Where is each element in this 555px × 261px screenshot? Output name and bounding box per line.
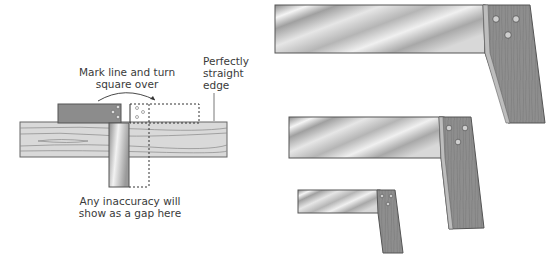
rivet-icon <box>116 115 120 119</box>
square-test-illustration <box>20 93 227 187</box>
rivet-icon <box>116 105 120 109</box>
rivet-icon <box>111 110 115 114</box>
label-line: square over <box>72 78 182 90</box>
label-line: Any inaccuracy will <box>75 195 185 207</box>
label-mark-line: Mark line and turn square over <box>72 66 182 90</box>
label-line: Mark line and turn <box>72 66 182 78</box>
rivet-outline-icon <box>136 116 139 119</box>
label-line: straight <box>203 67 263 79</box>
diagram-canvas <box>0 0 555 261</box>
label-gap: Any inaccuracy will show as a gap here <box>75 195 185 219</box>
rivet-outline-icon <box>136 107 139 110</box>
label-line: show as a gap here <box>75 207 185 219</box>
rivet-outline-icon <box>142 111 145 114</box>
label-line: Perfectly <box>203 55 263 67</box>
try-square-small <box>298 190 403 253</box>
try-square-large <box>275 5 545 123</box>
turn-over-arrow-icon <box>98 93 155 101</box>
label-line: edge <box>203 79 263 91</box>
label-straight-edge: Perfectly straight edge <box>203 55 263 91</box>
square-blade <box>109 123 129 187</box>
square-stock <box>58 104 121 123</box>
